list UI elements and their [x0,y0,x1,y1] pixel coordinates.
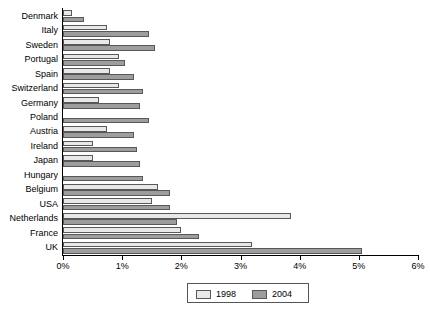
bar-1998 [63,198,152,204]
category-label: Spain [0,69,58,79]
x-tick-mark [122,256,123,260]
bar-2004 [63,248,362,254]
category-label: France [0,228,58,238]
category-label: Austria [0,126,58,136]
category-label: Germany [0,98,58,108]
bar-2004 [63,74,134,80]
bar-1998 [63,213,291,219]
x-tick-mark [241,256,242,260]
x-tick-mark [418,256,419,260]
bar-2004 [63,219,177,225]
bar-2004 [63,234,199,240]
bar-1998 [63,39,110,45]
bar-1998 [63,242,252,248]
category-label: Italy [0,25,58,35]
chart-category-row: Austria [0,125,430,139]
bar-2004 [63,31,149,37]
bar-2004 [63,147,137,153]
category-label: Sweden [0,40,58,50]
chart-category-row: Germany [0,96,430,110]
bar-2004 [63,190,170,196]
bar-2004 [63,118,149,124]
bar-1998 [63,83,119,89]
chart-category-row: Belgium [0,183,430,197]
bar-2004 [63,161,140,167]
bar-2004 [63,176,143,182]
category-label: Hungary [0,170,58,180]
legend-label-2004: 2004 [272,289,292,299]
bar-1998 [63,54,119,60]
chart-category-row: Japan [0,154,430,168]
bar-2004 [63,89,143,95]
x-tick-mark [300,256,301,260]
category-label: Denmark [0,11,58,21]
chart-category-row: Portugal [0,52,430,66]
bar-2004 [63,205,170,211]
chart-category-row: UK [0,241,430,255]
bar-2004 [63,132,134,138]
bar-chart: 0%1%2%3%4%5%6% DenmarkItalySwedenPortuga… [0,0,430,311]
category-label: Ireland [0,141,58,151]
category-label: Portugal [0,54,58,64]
chart-category-row: Denmark [0,9,430,23]
bar-2004 [63,60,125,66]
chart-category-row: Ireland [0,139,430,153]
legend-entry-2004: 2004 [252,288,292,300]
category-label: Japan [0,155,58,165]
category-label: Poland [0,112,58,122]
bar-2004 [63,103,140,109]
chart-category-row: France [0,226,430,240]
bar-1998 [63,97,99,103]
x-tick-mark [63,256,64,260]
bar-1998 [63,10,72,16]
x-tick-label: 0% [43,261,83,272]
bar-2004 [63,45,155,51]
chart-category-row: USA [0,197,430,211]
x-tick-label: 2% [161,261,201,272]
x-tick-label: 6% [398,261,430,272]
x-tick-label: 3% [221,261,261,272]
category-label: Switzerland [0,83,58,93]
x-tick-label: 5% [339,261,379,272]
bar-1998 [63,155,93,161]
bar-2004 [63,17,84,23]
chart-category-row: Switzerland [0,81,430,95]
bar-1998 [63,68,110,74]
legend-swatch-2004 [252,290,267,299]
category-label: UK [0,242,58,252]
chart-category-row: Sweden [0,38,430,52]
x-tick-mark [359,256,360,260]
chart-legend: 1998 2004 [187,283,309,303]
legend-label-1998: 1998 [216,289,236,299]
x-tick-mark [181,256,182,260]
chart-category-row: Spain [0,67,430,81]
category-label: Netherlands [0,213,58,223]
category-label: Belgium [0,184,58,194]
chart-category-row: Poland [0,110,430,124]
category-label: USA [0,199,58,209]
x-tick-label: 1% [102,261,142,272]
chart-category-row: Hungary [0,168,430,182]
bar-1998 [63,184,158,190]
bar-1998 [63,126,107,132]
bar-1998 [63,227,181,233]
bar-1998 [63,25,107,31]
legend-entry-1998: 1998 [196,288,236,300]
chart-category-row: Netherlands [0,212,430,226]
bar-1998 [63,141,93,147]
chart-category-row: Italy [0,23,430,37]
x-tick-label: 4% [280,261,320,272]
legend-swatch-1998 [196,290,211,299]
